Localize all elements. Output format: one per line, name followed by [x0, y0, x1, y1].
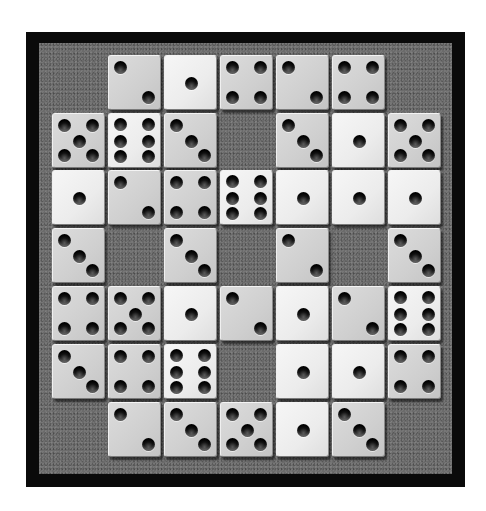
game-board-frame [26, 32, 465, 487]
pip-icon [338, 61, 351, 74]
pip-icon [241, 424, 254, 437]
pip-icon [73, 192, 86, 205]
pip-icon [198, 176, 211, 189]
die-r5-c1-face-4[interactable] [108, 344, 161, 399]
die-r1-c1-face-6[interactable] [108, 113, 161, 168]
pip-icon [226, 175, 239, 188]
die-r5-c2-face-6[interactable] [164, 344, 217, 399]
die-r6-c5-face-3[interactable] [332, 402, 385, 457]
pip-icon [185, 135, 198, 148]
die-r1-c0-face-5[interactable] [52, 113, 105, 168]
die-r3-c0-face-3[interactable] [52, 228, 105, 283]
die-r2-c1-face-2[interactable] [108, 170, 161, 225]
pip-icon [86, 380, 99, 393]
die-r5-c4-face-1[interactable] [276, 344, 329, 399]
die-r1-c4-face-3[interactable] [276, 113, 329, 168]
pip-icon [226, 438, 239, 451]
pip-icon [409, 135, 422, 148]
pip-icon [114, 380, 127, 393]
pip-icon [254, 175, 267, 188]
pip-icon [422, 149, 435, 162]
die-r4-c3-face-2[interactable] [220, 286, 273, 341]
die-r4-c5-face-2[interactable] [332, 286, 385, 341]
pip-icon [198, 149, 211, 162]
die-r6-c3-face-5[interactable] [220, 402, 273, 457]
die-r4-c1-face-5[interactable] [108, 286, 161, 341]
die-r4-c4-face-1[interactable] [276, 286, 329, 341]
pip-icon [353, 192, 366, 205]
pip-icon [142, 322, 155, 335]
pip-icon [254, 322, 267, 335]
die-r2-c0-face-1[interactable] [52, 170, 105, 225]
pip-icon [366, 322, 379, 335]
pip-icon [58, 119, 71, 132]
die-r5-c5-face-1[interactable] [332, 344, 385, 399]
die-r0-c2-face-1[interactable] [164, 55, 217, 110]
pip-icon [422, 291, 435, 304]
pip-icon [310, 91, 323, 104]
pip-icon [254, 408, 267, 421]
die-r4-c2-face-1[interactable] [164, 286, 217, 341]
pip-icon [86, 322, 99, 335]
pip-icon [142, 350, 155, 363]
die-r4-c6-face-6[interactable] [388, 286, 441, 341]
die-r2-c5-face-1[interactable] [332, 170, 385, 225]
pip-icon [353, 424, 366, 437]
die-r0-c5-face-4[interactable] [332, 55, 385, 110]
pip-icon [422, 264, 435, 277]
pip-icon [58, 234, 71, 247]
pip-icon [226, 408, 239, 421]
pip-icon [422, 350, 435, 363]
die-r0-c1-face-2[interactable] [108, 55, 161, 110]
pip-icon [394, 291, 407, 304]
die-r6-c2-face-3[interactable] [164, 402, 217, 457]
pip-icon [198, 366, 211, 379]
pip-icon [114, 176, 127, 189]
pip-icon [86, 149, 99, 162]
pip-icon [114, 118, 127, 131]
pip-icon [422, 308, 435, 321]
pip-icon [185, 250, 198, 263]
pip-icon [142, 135, 155, 148]
die-r4-c0-face-4[interactable] [52, 286, 105, 341]
die-r1-c2-face-3[interactable] [164, 113, 217, 168]
pip-icon [254, 207, 267, 220]
pip-icon [142, 380, 155, 393]
pip-icon [282, 234, 295, 247]
pip-icon [254, 91, 267, 104]
pip-icon [422, 323, 435, 336]
die-r2-c6-face-1[interactable] [388, 170, 441, 225]
pip-icon [297, 135, 310, 148]
die-r6-c4-face-1[interactable] [276, 402, 329, 457]
pip-icon [142, 438, 155, 451]
pip-icon [170, 119, 183, 132]
die-r6-c1-face-2[interactable] [108, 402, 161, 457]
die-r3-c6-face-3[interactable] [388, 228, 441, 283]
die-r2-c3-face-6[interactable] [220, 170, 273, 225]
die-r2-c2-face-4[interactable] [164, 170, 217, 225]
die-r2-c4-face-1[interactable] [276, 170, 329, 225]
pip-icon [198, 381, 211, 394]
pip-icon [297, 366, 310, 379]
pip-icon [114, 61, 127, 74]
die-r3-c2-face-3[interactable] [164, 228, 217, 283]
pip-icon [366, 91, 379, 104]
die-r1-c5-face-1[interactable] [332, 113, 385, 168]
pip-icon [170, 349, 183, 362]
die-r5-c0-face-3[interactable] [52, 344, 105, 399]
die-r0-c4-face-2[interactable] [276, 55, 329, 110]
pip-icon [170, 381, 183, 394]
die-r3-c4-face-2[interactable] [276, 228, 329, 283]
pip-icon [142, 292, 155, 305]
pip-icon [114, 350, 127, 363]
pip-icon [86, 119, 99, 132]
pip-icon [226, 292, 239, 305]
pip-icon [422, 119, 435, 132]
die-r5-c6-face-4[interactable] [388, 344, 441, 399]
pip-icon [394, 350, 407, 363]
game-board-field [39, 43, 452, 474]
die-r1-c6-face-5[interactable] [388, 113, 441, 168]
die-r0-c3-face-4[interactable] [220, 55, 273, 110]
pip-icon [142, 206, 155, 219]
pip-icon [170, 366, 183, 379]
